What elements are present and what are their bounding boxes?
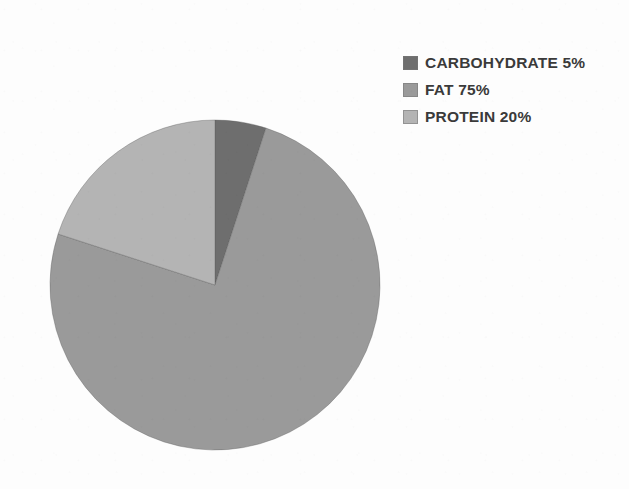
legend-swatch-carbohydrate	[403, 56, 418, 70]
legend-item-protein: PROTEIN 20%	[403, 104, 618, 130]
legend-item-fat: FAT 75%	[403, 77, 618, 103]
pie-chart-graphic: CARBOHYDRATE 5%FAT 75%PROTEIN 20%	[48, 119, 382, 451]
legend-label-protein: PROTEIN 20%	[425, 109, 531, 125]
legend-item-carbohydrate: CARBOHYDRATE 5%	[403, 50, 618, 76]
legend-label-carbohydrate: CARBOHYDRATE 5%	[425, 55, 585, 71]
legend-swatch-fat	[403, 83, 418, 97]
legend-label-fat: FAT 75%	[425, 82, 490, 98]
pie-chart-figure: CARBOHYDRATE 5%FAT 75%PROTEIN 20% CARBOH…	[0, 0, 629, 489]
pie-slice-group: CARBOHYDRATE 5%FAT 75%PROTEIN 20%	[50, 120, 380, 450]
chart-legend: CARBOHYDRATE 5% FAT 75% PROTEIN 20%	[403, 50, 618, 131]
legend-swatch-protein	[403, 110, 418, 124]
